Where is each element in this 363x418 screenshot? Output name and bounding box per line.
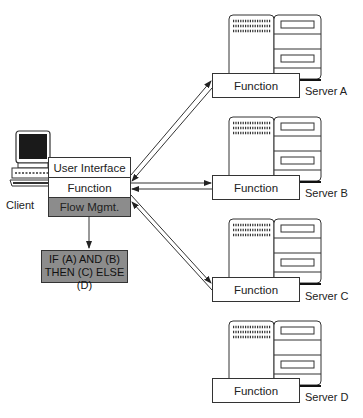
server-b-icon [228,115,323,183]
arrow-from-server-a [132,88,212,181]
client-function-box: Function [48,177,131,198]
server-b-function-box: Function [212,175,300,200]
user-interface-box: User Interface [48,157,131,178]
server-a-icon [228,13,323,81]
server-d-label: Server D [305,391,348,403]
server-a-function-box: Function [212,73,300,98]
condition-box: IF (A) AND (B) THEN (C) ELSE (D) [41,250,128,283]
server-c-label: Server C [305,290,348,302]
condition-line-1: IF (A) AND (B) [42,253,127,266]
server-c-function-box: Function [212,277,300,302]
arrow-from-server-c [132,202,212,290]
flow-mgmt-box: Flow Mgmt. [48,197,131,217]
arrow-to-server-c [131,195,211,283]
server-d-function-box: Function [212,378,300,403]
condition-line-2: THEN (C) ELSE (D) [42,266,127,292]
server-a-label: Server A [305,85,347,97]
server-d-icon [228,319,323,387]
client-label: Client [6,199,34,211]
arrow-to-server-a [131,81,211,175]
server-b-label: Server B [305,187,348,199]
server-c-icon [228,217,323,285]
